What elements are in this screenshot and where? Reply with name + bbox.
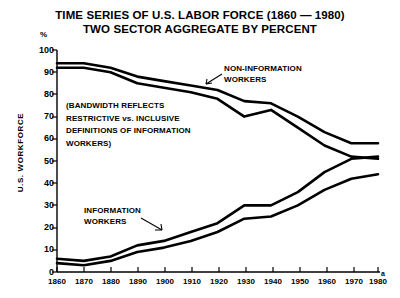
- bandwidth-line-2: RESTRICTIVE vs. INCLUSIVE: [66, 113, 191, 126]
- y-axis-ticks: [52, 50, 57, 272]
- non-information-workers-label: NON-INFORMATION WORKERS: [224, 63, 302, 85]
- chart-figure: TIME SERIES OF U.S. LABOR FORCE (1860 — …: [0, 0, 400, 298]
- x-axis-ticks: [57, 267, 378, 272]
- info-line-2: WORKERS: [84, 216, 141, 227]
- noninfo-line-2: WORKERS: [224, 74, 302, 85]
- bandwidth-line-4: WORKERS): [66, 138, 191, 151]
- chart-plot: [0, 0, 400, 298]
- footnote-marker: a: [381, 270, 385, 277]
- noninfo-leader: [206, 74, 222, 84]
- data-curves: [57, 63, 378, 265]
- info-line-1: INFORMATION: [84, 205, 141, 216]
- info-leader: [141, 218, 162, 230]
- bandwidth-line-1: (BANDWIDTH REFLECTS: [66, 100, 191, 113]
- noninfo-line-1: NON-INFORMATION: [224, 63, 302, 74]
- bandwidth-line-3: DEFINITIONS OF INFORMATION: [66, 125, 191, 138]
- x-tick-1980: 1980: [361, 277, 395, 286]
- bandwidth-annotation: (BANDWIDTH REFLECTS RESTRICTIVE vs. INCL…: [66, 100, 191, 150]
- information-workers-label: INFORMATION WORKERS: [84, 205, 141, 227]
